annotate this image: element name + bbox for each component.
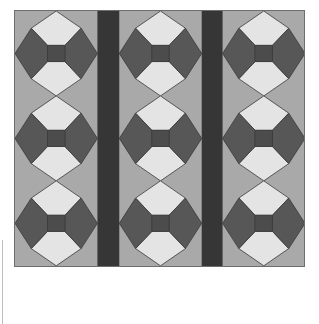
center-square [152, 215, 169, 231]
quilt-pattern [14, 10, 305, 267]
page-edge-line [2, 240, 3, 324]
center-square [255, 130, 272, 146]
center-square [152, 130, 169, 146]
sashing-strip-2 [202, 11, 223, 266]
center-square [152, 45, 169, 61]
quilt-svg [15, 11, 304, 266]
sashing-strip-1 [97, 11, 119, 266]
center-square [48, 45, 65, 61]
center-square [48, 130, 65, 146]
center-square [255, 45, 272, 61]
center-square [48, 215, 65, 231]
center-square [255, 215, 272, 231]
